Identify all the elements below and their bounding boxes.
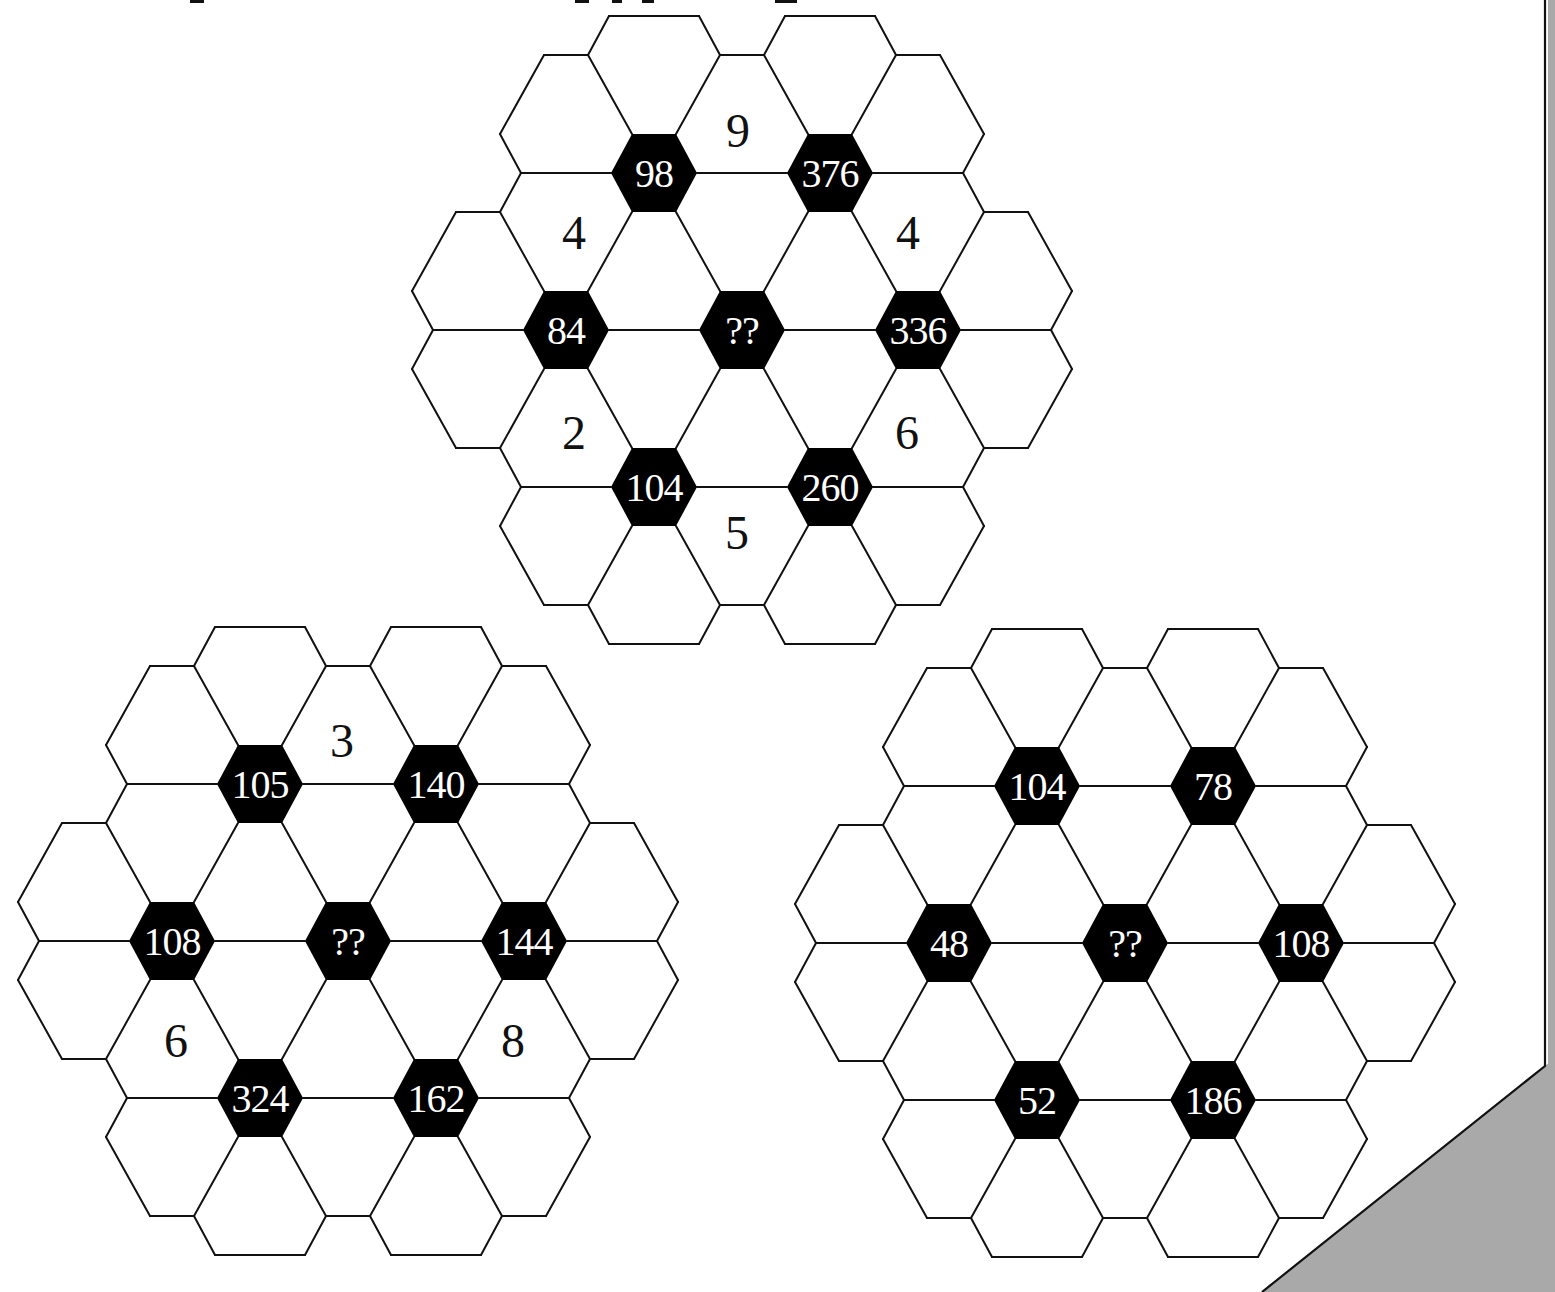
title-fragment-mark [775,0,797,3]
node-value: 108 [1273,921,1330,966]
puzzle-page: 9837684??336104260944265105140108??14432… [0,0,1555,1292]
number-node: 108 [129,902,215,980]
number-node: 108 [1258,904,1344,982]
number-node: 162 [393,1059,479,1137]
node-value: 78 [1194,764,1232,809]
title-fragment-mark [575,0,589,3]
node-value: ?? [1108,921,1142,966]
number-node: 336 [875,291,961,369]
unknown-center-node: ?? [1082,904,1168,982]
node-value: 324 [232,1076,290,1121]
node-value: 260 [802,465,859,510]
page-edge-line [1262,0,1545,1292]
cell-number: 5 [725,506,749,559]
node-value: 186 [1185,1078,1242,1123]
node-value: 376 [802,151,859,196]
cell-number: 2 [562,406,586,459]
cell-number: 6 [164,1014,188,1067]
cell-number: 6 [895,406,919,459]
cell-number: 4 [896,206,920,259]
page-curl-corner [1262,0,1555,1292]
node-value: 84 [547,308,586,353]
node-value: 48 [930,921,968,966]
number-node: 104 [994,747,1080,825]
cell-number: 8 [501,1014,525,1067]
number-node: 52 [994,1061,1080,1139]
node-value: 104 [1009,764,1067,809]
unknown-center-node: ?? [305,902,391,980]
puzzle-bottom-right: 1047848??10852186 [795,629,1455,1257]
puzzle-bottom-left: 105140108??144324162368 [18,627,678,1255]
node-value: 140 [408,762,465,807]
number-node: 105 [217,745,303,823]
node-value: 105 [232,762,289,807]
node-value: ?? [331,919,365,964]
unknown-center-node: ?? [699,291,785,369]
node-value: 108 [144,919,201,964]
number-node: 78 [1170,747,1256,825]
title-fragment-mark [190,0,204,3]
cell-number: 3 [330,714,354,767]
node-value: 162 [408,1076,465,1121]
number-node: 84 [523,291,609,369]
number-node: 140 [393,745,479,823]
number-node: 260 [787,448,873,526]
node-value: 98 [635,151,673,196]
title-fragment-mark [642,0,654,3]
node-value: 144 [496,919,554,964]
hexagon-puzzle-board: 9837684??336104260944265105140108??14432… [0,0,1555,1292]
number-node: 104 [611,448,697,526]
number-node: 324 [217,1059,303,1137]
number-node: 48 [906,904,992,982]
title-fragment-mark [612,0,622,3]
cut-off-title-fragments [190,0,797,3]
puzzle-top: 9837684??336104260944265 [412,16,1072,644]
node-value: 336 [890,308,947,353]
number-node: 144 [481,902,567,980]
node-value: ?? [725,308,759,353]
cell-number: 9 [726,104,750,157]
puzzles-container: 9837684??336104260944265105140108??14432… [18,16,1455,1257]
number-node: 186 [1170,1061,1256,1139]
node-value: 52 [1018,1078,1056,1123]
cell-number: 4 [562,206,586,259]
node-value: 104 [626,465,684,510]
number-node: 98 [611,134,697,212]
number-node: 376 [787,134,873,212]
